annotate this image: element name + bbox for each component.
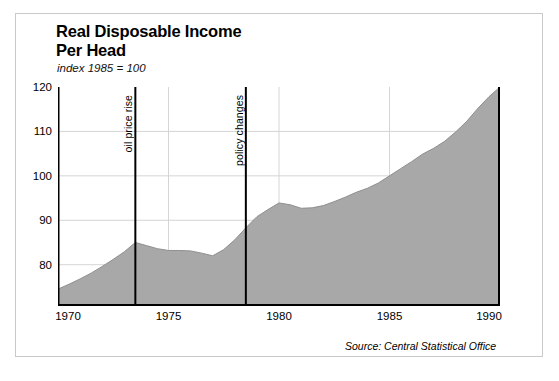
x-tick-label: 1970 <box>55 310 81 322</box>
chart-subtitle: index 1985 = 100 <box>57 62 146 74</box>
x-tick-label: 1990 <box>476 310 502 322</box>
y-tick-label: 120 <box>12 81 52 93</box>
annotation-label-1: policy changes <box>233 95 245 166</box>
y-tick-label: 110 <box>12 125 52 137</box>
x-tick-label: 1975 <box>156 310 182 322</box>
annotation-label-0: oil price rise <box>122 95 134 152</box>
y-tick-label: 80 <box>12 259 52 271</box>
y-axis-tick-labels: 8090100110120 <box>8 87 52 306</box>
y-tick-label: 100 <box>12 170 52 182</box>
x-axis-tick-labels: 19701975198019851990 <box>58 310 500 328</box>
x-tick-label: 1980 <box>266 310 292 322</box>
x-tick-label: 1985 <box>377 310 403 322</box>
chart-figure: Real Disposable Income Per Head index 19… <box>0 0 559 381</box>
chart-title: Real Disposable Income Per Head <box>56 22 241 60</box>
source-caption: Source: Central Statistical Office <box>345 340 496 352</box>
plot-area: oil price risepolicy changes <box>58 87 500 306</box>
y-tick-label: 90 <box>12 214 52 226</box>
